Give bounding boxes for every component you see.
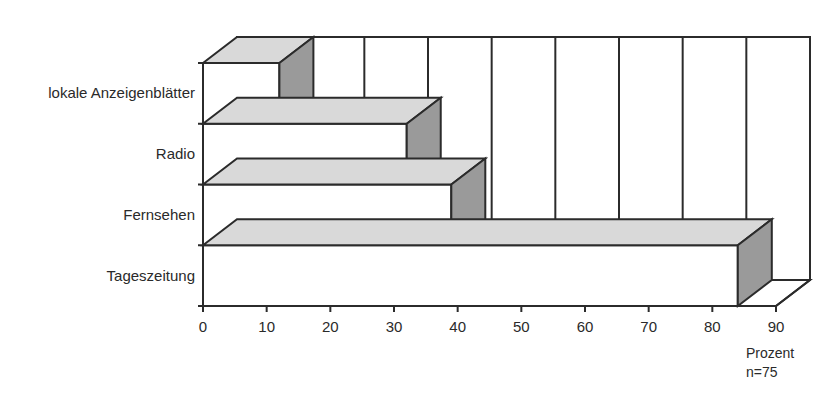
x-tick-labels: 0102030405060708090 <box>199 318 785 335</box>
x-tick-label: 60 <box>577 318 594 335</box>
x-axis-label: Prozent <box>746 345 794 361</box>
x-tick-label: 90 <box>768 318 785 335</box>
category-label: Tageszeitung <box>107 267 195 284</box>
x-tick-label: 40 <box>449 318 466 335</box>
sample-size-note: n=75 <box>746 364 778 380</box>
bar-top-face <box>203 98 441 124</box>
bar-top-face <box>203 159 485 185</box>
x-tick-label: 70 <box>640 318 657 335</box>
bar-front-face <box>203 245 738 306</box>
bar-tageszeitung <box>203 219 772 306</box>
bar-top-face <box>203 219 772 245</box>
category-label: Fernsehen <box>123 206 195 223</box>
category-labels: lokale AnzeigenblätterRadioFernsehenTage… <box>48 84 195 283</box>
x-tick-label: 30 <box>386 318 403 335</box>
x-tick-label: 0 <box>199 318 207 335</box>
category-label: Radio <box>156 145 195 162</box>
x-tick-label: 50 <box>513 318 530 335</box>
x-tick-label: 20 <box>322 318 339 335</box>
x-tick-label: 80 <box>704 318 721 335</box>
x-tick-label: 10 <box>258 318 275 335</box>
bar-chart-3d: lokale AnzeigenblätterRadioFernsehenTage… <box>0 0 832 402</box>
category-label: lokale Anzeigenblätter <box>48 84 195 101</box>
